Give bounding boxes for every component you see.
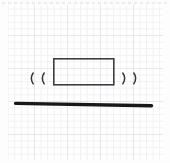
motion-mark-right-inner-icon: [123, 73, 125, 84]
motion-mark-left-inner-icon: [42, 73, 44, 84]
motion-mark-left-outer-icon: [31, 73, 33, 84]
block-rectangle: [54, 59, 114, 85]
ground-line: [16, 103, 152, 105]
sketch-canvas: [0, 0, 170, 163]
motion-mark-right-outer-icon: [134, 73, 136, 84]
sketch-figure: [0, 0, 170, 163]
